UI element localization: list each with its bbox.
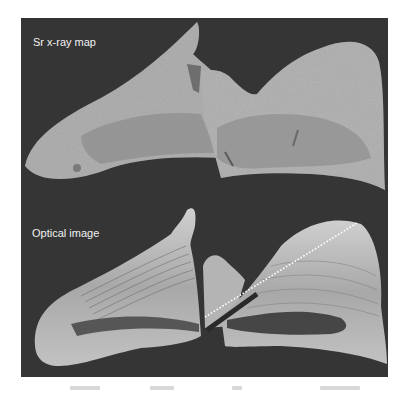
cropped-caption-remnant [0,384,407,394]
optical-image-panel: Optical image [21,196,388,377]
panel-label-sr-xray-map: Sr x-ray map [33,36,96,48]
spot-mark [73,164,81,172]
figure-container: Sr x-ray map [21,18,388,377]
optical-image [21,196,388,377]
sr-xray-map-panel: Sr x-ray map [21,18,388,196]
panel-label-optical-image: Optical image [32,227,99,239]
